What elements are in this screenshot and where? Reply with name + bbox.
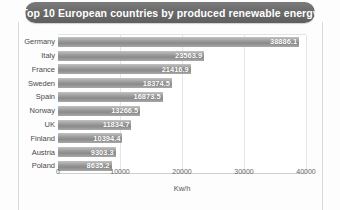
chart-title: Top 10 European countries by produced re… [21,7,319,19]
chart-container: Germany38886.1Italy23563.9France21416.9S… [18,26,322,206]
category-label: Spain [36,93,55,101]
bar-row: Finland10394.4 [58,132,306,146]
category-label: France [32,66,55,74]
bar: 21416.9 [58,64,191,74]
bar-row: Sweden18374.5 [58,76,306,90]
bar: 16873.5 [58,92,163,102]
bar-value-label: 21416.9 [162,66,189,74]
bar-value-label: 8635.2 [87,162,110,170]
bar-row: Spain16873.5 [58,90,306,104]
bar: 23563.9 [58,51,204,61]
plot-area: Germany38886.1Italy23563.9France21416.9S… [58,34,306,174]
category-label: Austria [32,149,55,157]
bar: 10394.4 [58,133,122,143]
chart-title-banner: Top 10 European countries by produced re… [25,2,315,23]
category-label: Germany [24,38,55,46]
frame-border-right [322,22,323,210]
bar-value-label: 23563.9 [175,52,202,60]
bar-value-label: 13266.5 [111,107,138,115]
x-tick-label: 20000 [172,168,191,175]
bar-row: UK11834.7 [58,118,306,132]
category-label: Norway [30,107,55,115]
category-label: Poland [32,162,55,170]
category-label: UK [45,121,55,129]
bar: 38886.1 [58,37,299,47]
bar: 11834.7 [58,120,131,130]
x-tick-label: 40000 [296,168,315,175]
bar-value-label: 9303.3 [91,149,114,157]
bar-value-label: 11834.7 [103,121,130,129]
bar-value-label: 10394.4 [93,135,120,143]
bar-value-label: 18374.5 [143,80,170,88]
bar-value-label: 16873.5 [133,93,160,101]
x-tick-label: 30000 [234,168,253,175]
bar: 8635.2 [58,161,112,171]
category-label: Finland [30,135,55,143]
category-label: Italy [41,52,55,60]
gridline [306,35,307,173]
x-tick-label: 10000 [110,168,129,175]
x-tick-label: 0 [56,168,60,175]
bar: 13266.5 [58,106,140,116]
bar: 18374.5 [58,78,172,88]
bar-row: Germany38886.1 [58,35,306,49]
x-axis-label: Kw/h [58,184,306,193]
category-label: Sweden [28,80,55,88]
bar-row: Austria9303.3 [58,145,306,159]
bar-row: Italy23563.9 [58,49,306,63]
chart-page: Top 10 European countries by produced re… [0,0,340,210]
bar-row: Norway13266.5 [58,104,306,118]
bar: 9303.3 [58,147,116,157]
bar-row: France21416.9 [58,63,306,77]
bar-value-label: 38886.1 [270,38,297,46]
